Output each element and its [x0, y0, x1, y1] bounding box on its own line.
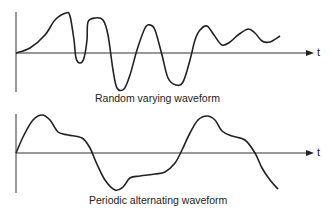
random-waveform-curve [16, 12, 280, 90]
top-caption: Random varying waveform [95, 92, 220, 104]
top-arrow-icon [306, 50, 314, 56]
top-t-label: t [317, 46, 320, 58]
bottom-arrow-icon [306, 150, 314, 156]
waveform-diagram [0, 0, 330, 213]
bottom-t-label: t [317, 146, 320, 158]
bottom-caption: Periodic alternating waveform [89, 194, 227, 206]
